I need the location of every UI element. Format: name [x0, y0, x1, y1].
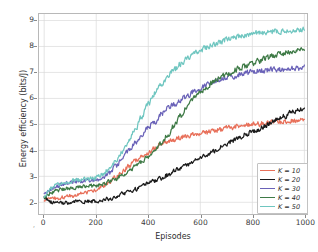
- x-tick-mark: [201, 215, 202, 218]
- legend-swatch: [260, 170, 275, 171]
- y-tick-mark: [34, 203, 37, 204]
- legend-item-20[interactable]: K = 20: [260, 175, 304, 184]
- y-axis-title: Energy efficiency (bits/J): [19, 44, 28, 194]
- y-tick-label: 6: [0, 94, 34, 102]
- legend-swatch: [260, 188, 275, 189]
- x-axis-title: Episodes: [38, 232, 308, 241]
- y-tick-mark: [34, 177, 37, 178]
- legend-label: K = 30: [278, 185, 300, 193]
- legend-swatch: [260, 179, 275, 180]
- x-tick-mark: [305, 215, 306, 218]
- legend-label: K = 20: [278, 176, 300, 184]
- x-tick-label: 800: [246, 219, 260, 227]
- legend-swatch: [260, 206, 275, 207]
- legend-item-10[interactable]: K = 10: [260, 166, 304, 175]
- x-tick-mark: [148, 215, 149, 218]
- x-tick-label: 200: [88, 219, 102, 227]
- y-tick-label: 2: [0, 199, 34, 207]
- x-tick-mark: [96, 215, 97, 218]
- y-tick-mark: [34, 46, 37, 47]
- x-tick-mark: [43, 215, 44, 218]
- x-tick-mark: [253, 215, 254, 218]
- y-tick-mark: [34, 72, 37, 73]
- y-tick-label: 7: [0, 68, 34, 76]
- legend-label: K = 10: [278, 167, 300, 175]
- y-tick-label: 3: [0, 173, 34, 181]
- origin-marker: ,: [33, 221, 35, 228]
- y-tick-label: 8: [0, 42, 34, 50]
- legend-item-50[interactable]: K = 50: [260, 202, 304, 211]
- y-tick-label: 9: [0, 16, 34, 24]
- y-tick-label: 4: [0, 147, 34, 155]
- y-tick-mark: [34, 151, 37, 152]
- x-tick-label: 0: [41, 219, 46, 227]
- legend-item-40[interactable]: K = 40: [260, 193, 304, 202]
- legend: K = 10K = 20K = 30K = 40K = 50: [257, 163, 308, 214]
- y-tick-mark: [34, 98, 37, 99]
- legend-label: K = 40: [278, 194, 300, 202]
- legend-item-30[interactable]: K = 30: [260, 184, 304, 193]
- y-tick-label: 5: [0, 120, 34, 128]
- x-tick-label: 400: [141, 219, 155, 227]
- legend-swatch: [260, 197, 275, 198]
- chart-figure: Energy efficiency (bits/J) 23456789 0200…: [0, 0, 318, 252]
- y-tick-mark: [34, 20, 37, 21]
- legend-label: K = 50: [278, 203, 300, 211]
- y-tick-mark: [34, 124, 37, 125]
- x-tick-label: 600: [193, 219, 207, 227]
- x-tick-label: 1000: [296, 219, 315, 227]
